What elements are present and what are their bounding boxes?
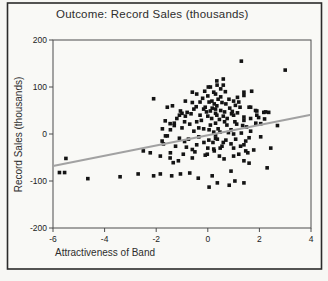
data-point bbox=[152, 97, 156, 101]
data-point bbox=[255, 109, 259, 113]
data-point bbox=[210, 106, 214, 110]
data-point bbox=[195, 120, 199, 124]
data-point bbox=[227, 97, 231, 101]
data-point bbox=[210, 117, 214, 121]
data-point bbox=[207, 138, 211, 142]
data-point bbox=[257, 116, 261, 120]
data-point bbox=[152, 174, 156, 178]
data-point bbox=[180, 112, 184, 116]
data-point bbox=[227, 183, 231, 187]
data-point bbox=[201, 96, 205, 100]
x-tick-label: -2 bbox=[152, 234, 160, 244]
data-point bbox=[203, 89, 207, 93]
x-tick-label: 4 bbox=[309, 234, 314, 244]
data-point bbox=[216, 137, 220, 141]
data-point bbox=[165, 134, 169, 138]
data-point bbox=[232, 132, 236, 136]
data-point bbox=[276, 124, 280, 128]
data-point bbox=[221, 77, 225, 81]
data-point bbox=[179, 172, 183, 176]
data-point bbox=[234, 137, 238, 141]
data-point bbox=[238, 105, 242, 109]
data-point bbox=[195, 143, 199, 147]
data-point bbox=[242, 94, 246, 98]
data-point bbox=[221, 114, 225, 118]
data-point bbox=[232, 154, 236, 158]
data-point bbox=[229, 169, 233, 173]
scatter-plot-canvas: -6-4-20242001000-100-200 bbox=[0, 0, 328, 281]
data-point bbox=[229, 142, 233, 146]
data-point bbox=[218, 154, 222, 158]
data-point bbox=[259, 135, 263, 139]
y-tick-label: -100 bbox=[30, 176, 47, 186]
data-point bbox=[249, 129, 253, 133]
y-tick-label: 200 bbox=[33, 35, 47, 45]
y-axis-label: Record Sales (thousands) bbox=[13, 75, 24, 195]
data-point bbox=[247, 136, 251, 140]
data-point bbox=[214, 121, 218, 125]
chart-title: Outcome: Record Sales (thousands) bbox=[56, 8, 249, 20]
data-point bbox=[225, 117, 229, 121]
data-point bbox=[188, 122, 192, 126]
data-point bbox=[263, 117, 267, 121]
data-point bbox=[264, 110, 268, 114]
data-point bbox=[185, 111, 189, 115]
data-point bbox=[232, 99, 236, 103]
data-point bbox=[148, 151, 152, 155]
data-point bbox=[242, 181, 246, 185]
data-point bbox=[193, 150, 197, 154]
data-point bbox=[232, 113, 236, 117]
data-point bbox=[171, 161, 175, 165]
data-point bbox=[236, 111, 240, 115]
data-point bbox=[207, 128, 211, 132]
data-point bbox=[168, 122, 172, 126]
data-point bbox=[206, 114, 210, 118]
data-point bbox=[210, 174, 214, 178]
data-point bbox=[237, 152, 241, 156]
data-point bbox=[232, 146, 236, 150]
data-point bbox=[247, 161, 251, 165]
data-point bbox=[220, 144, 224, 148]
data-point bbox=[191, 156, 195, 160]
data-point bbox=[235, 122, 239, 126]
data-point bbox=[184, 99, 188, 103]
y-tick-label: 0 bbox=[42, 129, 47, 139]
data-point bbox=[206, 146, 210, 150]
data-point bbox=[220, 101, 224, 105]
data-point bbox=[240, 59, 244, 63]
data-point bbox=[215, 79, 219, 83]
data-point bbox=[242, 143, 246, 147]
x-tick-label: -6 bbox=[49, 234, 57, 244]
data-point bbox=[216, 181, 220, 185]
data-point bbox=[169, 128, 173, 132]
data-point bbox=[192, 129, 196, 133]
scatterplot-figure: -6-4-20242001000-100-200 Outcome: Record… bbox=[0, 0, 328, 281]
y-tick-label: -200 bbox=[30, 223, 47, 233]
data-point bbox=[219, 109, 223, 113]
data-point bbox=[219, 95, 223, 99]
data-point bbox=[241, 124, 245, 128]
data-point bbox=[239, 144, 243, 148]
data-point bbox=[63, 171, 67, 175]
data-point bbox=[252, 148, 256, 152]
x-axis-label: Attractiveness of Band bbox=[55, 247, 155, 258]
data-point bbox=[216, 127, 220, 131]
data-point bbox=[118, 175, 122, 179]
data-point bbox=[209, 123, 213, 127]
data-point bbox=[265, 166, 269, 170]
data-point bbox=[209, 85, 213, 89]
data-point bbox=[194, 105, 198, 109]
data-point bbox=[172, 121, 176, 125]
data-point bbox=[161, 127, 165, 131]
data-point bbox=[174, 144, 178, 148]
y-tick-label: 100 bbox=[33, 82, 47, 92]
data-point bbox=[212, 149, 216, 153]
data-point bbox=[184, 114, 188, 118]
data-point bbox=[191, 101, 195, 105]
data-point bbox=[185, 145, 189, 149]
data-point bbox=[169, 151, 173, 155]
data-point bbox=[215, 113, 219, 117]
data-point bbox=[168, 156, 172, 160]
data-point bbox=[228, 106, 232, 110]
data-point bbox=[231, 110, 235, 114]
